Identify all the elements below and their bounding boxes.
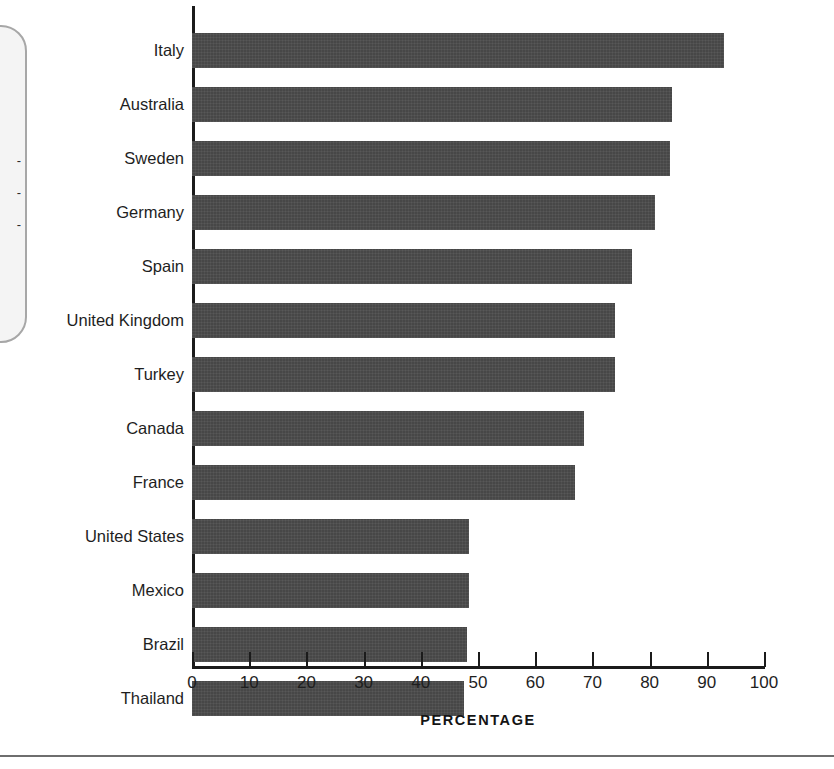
category-label: France <box>0 455 184 509</box>
bar[interactable] <box>192 33 724 68</box>
bar-row[interactable]: France <box>0 455 834 509</box>
bar-row[interactable]: Brazil <box>0 617 834 671</box>
bar-chart: ItalyAustraliaSwedenGermanySpainUnited K… <box>0 0 834 745</box>
category-label: Canada <box>0 401 184 455</box>
category-label: United Kingdom <box>0 293 184 347</box>
bar-row[interactable]: Spain <box>0 239 834 293</box>
bar[interactable] <box>192 519 469 554</box>
bar[interactable] <box>192 141 670 176</box>
x-axis-tick <box>764 652 766 667</box>
x-axis-tick <box>306 652 308 667</box>
x-axis-tick <box>478 652 480 667</box>
bar-row[interactable]: Sweden <box>0 131 834 185</box>
category-label: Mexico <box>0 563 184 617</box>
bar-row[interactable]: Italy <box>0 23 834 77</box>
x-axis-tick-label: 80 <box>620 673 680 693</box>
page-divider-rule <box>0 755 834 757</box>
x-axis-tick <box>650 652 652 667</box>
category-label: Germany <box>0 185 184 239</box>
x-axis-title: PERCENTAGE <box>192 712 764 728</box>
bar[interactable] <box>192 573 469 608</box>
category-label: Italy <box>0 23 184 77</box>
bar-row[interactable]: Mexico <box>0 563 834 617</box>
x-axis-tick <box>364 652 366 667</box>
category-label: Sweden <box>0 131 184 185</box>
x-axis-tick-label: 60 <box>505 673 565 693</box>
x-axis-tick-label: 30 <box>334 673 394 693</box>
bar-row[interactable]: Australia <box>0 77 834 131</box>
bar[interactable] <box>192 249 632 284</box>
bar-row[interactable]: Germany <box>0 185 834 239</box>
bar[interactable] <box>192 303 615 338</box>
x-axis-tick-label: 20 <box>276 673 336 693</box>
bar[interactable] <box>192 465 575 500</box>
bar-row[interactable]: United Kingdom <box>0 293 834 347</box>
category-label: Australia <box>0 77 184 131</box>
x-axis-tick <box>192 652 194 667</box>
x-axis-tick-label: 10 <box>219 673 279 693</box>
x-axis-tick <box>421 652 423 667</box>
category-label: Spain <box>0 239 184 293</box>
bar[interactable] <box>192 627 467 662</box>
x-axis-tick <box>535 652 537 667</box>
category-label: United States <box>0 509 184 563</box>
bar-row[interactable]: Turkey <box>0 347 834 401</box>
x-axis-tick <box>249 652 251 667</box>
x-axis-tick-label: 50 <box>448 673 508 693</box>
bar[interactable] <box>192 357 615 392</box>
x-axis-tick <box>707 652 709 667</box>
bar[interactable] <box>192 411 584 446</box>
category-label: Thailand <box>0 671 184 725</box>
x-axis-tick-label: 70 <box>562 673 622 693</box>
bar[interactable] <box>192 87 672 122</box>
x-axis-tick-label: 90 <box>677 673 737 693</box>
category-label: Turkey <box>0 347 184 401</box>
x-axis-tick-label: 100 <box>734 673 794 693</box>
bar[interactable] <box>192 195 655 230</box>
x-axis-tick-label: 0 <box>162 673 222 693</box>
category-label: Brazil <box>0 617 184 671</box>
x-axis-tick-label: 40 <box>391 673 451 693</box>
bar-row[interactable]: Canada <box>0 401 834 455</box>
x-axis-tick <box>592 652 594 667</box>
bar-row[interactable]: United States <box>0 509 834 563</box>
